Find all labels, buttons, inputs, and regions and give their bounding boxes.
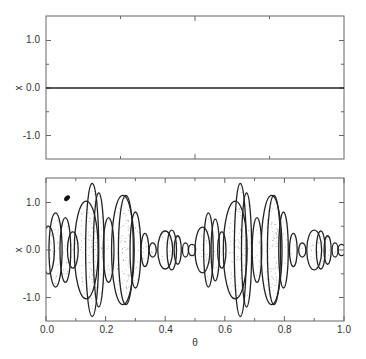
- lobe-outline: [149, 243, 156, 257]
- stipple-dot: [108, 274, 109, 275]
- lobe-outline: [299, 243, 306, 257]
- stipple-dot: [169, 242, 170, 243]
- stipple-dot: [207, 276, 208, 277]
- stipple-dot: [127, 288, 128, 289]
- stipple-dot: [96, 242, 97, 243]
- stipple-dot: [169, 243, 170, 244]
- stipple-dot: [276, 246, 277, 247]
- stipple-dot: [127, 220, 128, 221]
- stipple-dot: [82, 282, 83, 283]
- stipple-dot: [318, 251, 319, 252]
- stipple-dot: [277, 229, 278, 230]
- stipple-dot: [117, 269, 118, 270]
- stipple-dot: [145, 243, 146, 244]
- stipple-dot: [259, 266, 260, 267]
- stipple-dot: [89, 276, 90, 277]
- stipple-dot: [273, 236, 274, 237]
- stipple-dot: [122, 235, 123, 236]
- stipple-dot: [202, 250, 203, 251]
- stipple-dot: [56, 276, 57, 277]
- stipple-dot: [214, 268, 215, 269]
- stipple-dot: [128, 210, 129, 211]
- stipple-dot: [101, 247, 102, 248]
- stipple-dot: [122, 283, 123, 284]
- stipple-dot: [276, 263, 277, 264]
- stipple-dot: [57, 220, 58, 221]
- stipple-dot: [91, 191, 92, 192]
- stipple-dot: [267, 279, 268, 280]
- stipple-dot: [127, 215, 128, 216]
- stipple-dot: [229, 253, 230, 254]
- stipple-dot: [273, 291, 274, 292]
- stipple-dot: [276, 279, 277, 280]
- stipple-dot: [275, 285, 276, 286]
- stipple-dot: [89, 286, 90, 287]
- stipple-dot: [239, 209, 240, 210]
- stipple-dot: [276, 293, 277, 294]
- stipple-dot: [97, 246, 98, 247]
- stipple-dot: [220, 263, 221, 264]
- stipple-dot: [81, 273, 82, 274]
- stipple-dot: [259, 260, 260, 261]
- stipple-dot: [321, 236, 322, 237]
- lobe-outline: [234, 184, 246, 317]
- stipple-dot: [239, 248, 240, 249]
- stipple-dot: [327, 237, 328, 238]
- stipple-dot: [89, 290, 90, 291]
- stipple-dot: [55, 229, 56, 230]
- stipple-dot: [283, 285, 284, 286]
- stipple-dot: [229, 232, 230, 233]
- stipple-dot: [230, 227, 231, 228]
- stipple-dot: [135, 228, 136, 229]
- stipple-dot: [318, 243, 319, 244]
- top-panel: 1.0 0.0 -1.0 x: [13, 16, 344, 159]
- stipple-dot: [272, 222, 273, 223]
- stipple-dot: [128, 276, 129, 277]
- bottom-panel: 1.0 0.0 -1.0 x 0.0 0.2 0.4 0.6 0.8 1.0 θ: [13, 178, 351, 348]
- stipple-dot: [151, 251, 152, 252]
- stipple-dot: [247, 295, 248, 296]
- bottom-xtick-1: 0.0: [40, 324, 54, 335]
- stipple-dot: [272, 283, 273, 284]
- stipple-dot: [206, 259, 207, 260]
- stipple-dot: [81, 220, 82, 221]
- stipple-dot: [271, 211, 272, 212]
- stipple-dot: [259, 241, 260, 242]
- stipple-dot: [208, 219, 209, 220]
- stipple-dot: [243, 271, 244, 272]
- stipple-dot: [91, 240, 92, 241]
- lobe-outline: [167, 230, 177, 270]
- stipple-dot: [248, 205, 249, 206]
- stipple-dot: [90, 221, 91, 222]
- stipple-dot: [319, 243, 320, 244]
- stipple-dot: [47, 247, 48, 248]
- stipple-dot: [57, 265, 58, 266]
- stipple-dot: [97, 303, 98, 304]
- stipple-dot: [245, 301, 246, 302]
- stipple-dot: [95, 270, 96, 271]
- stipple-dot: [259, 262, 260, 263]
- stipple-dot: [311, 256, 312, 257]
- stipple-dot: [120, 227, 121, 228]
- stipple-dot: [124, 213, 125, 214]
- stipple-dot: [123, 225, 124, 226]
- stipple-dot: [138, 243, 139, 244]
- stipple-dot: [248, 248, 249, 249]
- stipple-dot: [206, 256, 207, 257]
- stipple-dot: [92, 279, 93, 280]
- stipple-dot: [273, 279, 274, 280]
- stipple-dot: [101, 269, 102, 270]
- stipple-dot: [57, 235, 58, 236]
- stipple-dot: [95, 242, 96, 243]
- stipple-dot: [128, 230, 129, 231]
- stipple-dot: [166, 262, 167, 263]
- stipple-dot: [126, 293, 127, 294]
- stipple-dot: [272, 231, 273, 232]
- stipple-dot: [335, 251, 336, 252]
- chart-figure: 1.0 0.0 -1.0 x 1.0 0.0 -1.0 x 0.0 0.2 0.…: [0, 0, 366, 359]
- stipple-dot: [275, 224, 276, 225]
- stipple-dot: [119, 294, 120, 295]
- stipple-dot: [249, 242, 250, 243]
- stipple-dot: [328, 255, 329, 256]
- stipple-dot: [58, 221, 59, 222]
